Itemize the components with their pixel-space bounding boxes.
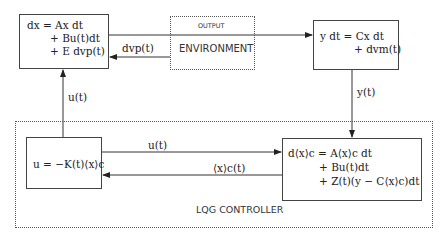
estimator-eq-line2: + Bu(t)dt — [319, 161, 369, 174]
measurement-eq-line1: y dt = Cx dt — [320, 30, 384, 43]
measurement-box: y dt = Cx dt + dvm(t) — [313, 20, 399, 70]
control-signal-up-label: u(t) — [68, 91, 87, 103]
environment-box: OUTPUT ENVIRONMENT — [170, 16, 255, 70]
state-estimator-box: d⟨x⟩c = A⟨x⟩c dt + Bu(t)dt + Z(t)(y − C⟨… — [282, 138, 422, 201]
measurement-eq-line2: + dvm(t) — [354, 43, 401, 56]
lqg-controller-title: LQG CONTROLLER — [196, 204, 283, 215]
process-noise-label: dvp(t) — [122, 42, 154, 54]
output-label: OUTPUT — [198, 22, 225, 30]
estimator-eq-line3: + Z(t)(y − C⟨x⟩c)dt — [319, 175, 419, 188]
plant-eq-line2: + Bu(t)dt — [50, 32, 100, 45]
estimator-eq-line1: d⟨x⟩c = A⟨x⟩c dt — [288, 147, 372, 160]
plant-eq-line3: + E dvp(t) — [50, 45, 105, 58]
plant-eq-line1: dx = Ax dt — [27, 19, 83, 32]
feedback-law-eq: u = −K(t)⟨x⟩c — [33, 158, 104, 171]
measurement-signal-label: y(t) — [357, 86, 375, 98]
feedback-law-box: u = −K(t)⟨x⟩c — [26, 137, 102, 189]
control-signal-right-label: u(t) — [148, 139, 167, 151]
environment-title: ENVIRONMENT — [179, 43, 253, 54]
state-estimate-label: ⟨x⟩c(t) — [213, 162, 245, 174]
plant-dynamics-box: dx = Ax dt + Bu(t)dt + E dvp(t) — [19, 14, 109, 69]
